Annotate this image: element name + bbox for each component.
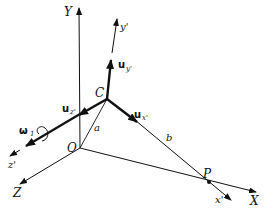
z-prime-axis bbox=[10, 150, 20, 156]
u-y-prime-vector bbox=[107, 60, 111, 99]
label-u-z-prime: u bbox=[62, 103, 69, 114]
label-omega: ω bbox=[19, 125, 28, 136]
label-O: O bbox=[67, 141, 77, 155]
vector-b-line bbox=[135, 120, 231, 200]
u-x-prime-vector bbox=[107, 99, 137, 122]
label-u-y-prime: u bbox=[118, 59, 125, 70]
label-y-prime: y' bbox=[119, 21, 128, 32]
label-x-prime: x' bbox=[215, 194, 223, 205]
label-a: a bbox=[94, 122, 100, 133]
kinematics-diagram: Y y' u y' C u z' u x' a b ω 1 O z' Z P x… bbox=[0, 0, 265, 214]
label-z-prime: z' bbox=[7, 159, 16, 170]
label-u-z-prime-sub: z' bbox=[69, 108, 76, 116]
label-u-y-prime-sub: y' bbox=[125, 65, 132, 73]
label-u-x-prime-sub: x' bbox=[142, 114, 148, 122]
label-C: C bbox=[95, 86, 104, 100]
label-P: P bbox=[202, 167, 212, 181]
label-b: b bbox=[166, 132, 172, 143]
label-omega-sub: 1 bbox=[30, 130, 34, 138]
label-X: X bbox=[249, 194, 259, 208]
label-Y: Y bbox=[64, 5, 73, 19]
y-axis bbox=[79, 8, 80, 148]
y-prime-axis bbox=[112, 19, 117, 53]
x-axis bbox=[80, 148, 256, 192]
label-Z: Z bbox=[12, 186, 22, 200]
label-u-x-prime: u bbox=[134, 109, 141, 120]
